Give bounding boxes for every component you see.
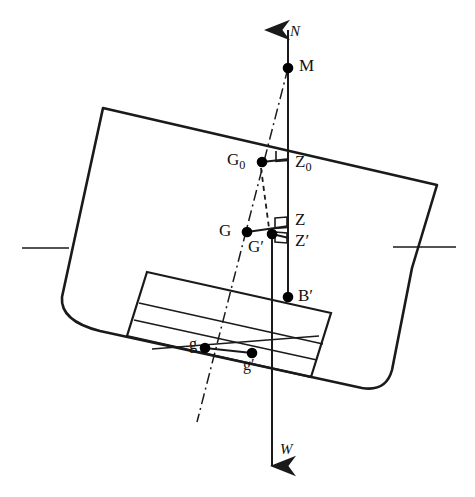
label-n-force: N [290,24,300,39]
label-b-prime: B′ [298,287,313,304]
label-w-force: W [280,442,293,457]
label-tank-g: g [189,336,197,352]
label-g-zero: G0 [227,151,245,172]
label-z-zero: Z0 [295,153,312,174]
stability-diagram: N M G0 Z0 G G′ Z Z′ B′ g g′ W [0,0,475,497]
label-g: G [219,222,231,239]
point-tank-g [200,343,211,354]
label-z: Z [295,211,305,228]
point-m [283,63,294,74]
label-g-prime: G′ [248,238,264,255]
lever-arm-g-gprime [205,348,252,353]
label-metacentre-m: M [299,57,314,74]
construction-line-g0-gprime [261,168,269,228]
point-bprime [283,292,294,303]
diagram-canvas [0,0,475,497]
point-g [242,227,253,238]
tank-free-surface-lines [134,303,323,360]
label-z-prime: Z′ [295,232,309,249]
label-tank-g-prime: g′ [243,357,255,373]
point-gprime [267,229,278,240]
point-g0 [257,157,268,168]
point-markers [200,63,294,359]
